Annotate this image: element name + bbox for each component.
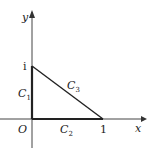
point-i-label: i	[23, 61, 27, 72]
point-one-label: 1	[100, 124, 107, 135]
y-axis-label: y	[22, 12, 28, 23]
curve-c1-label: C1	[18, 88, 31, 102]
x-axis-label: x	[135, 123, 141, 134]
origin-label: O	[18, 124, 27, 135]
curve-c3-label: C3	[67, 80, 80, 94]
x-axis-arrow-icon	[141, 116, 147, 122]
y-axis-arrow-icon	[29, 10, 35, 18]
curve-c2-label: C2	[60, 124, 73, 138]
